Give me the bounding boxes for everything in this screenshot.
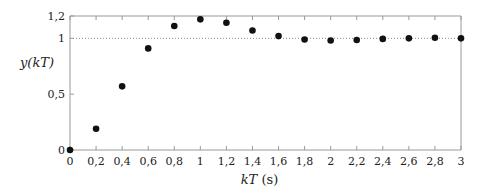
data-point <box>145 45 152 52</box>
x-tick-label: 1,8 <box>296 155 314 168</box>
x-axis-label: kT (s) <box>241 172 279 187</box>
x-tick-label: 2,8 <box>426 155 444 168</box>
data-point <box>301 36 308 43</box>
data-point <box>171 23 178 30</box>
data-point <box>223 19 230 26</box>
y-tick-label: 1 <box>58 32 65 45</box>
x-tick-label: 1,4 <box>244 155 262 168</box>
data-point <box>93 125 100 132</box>
y-tick-label: 0,5 <box>48 88 66 101</box>
x-tick-label: 0,8 <box>166 155 184 168</box>
data-point <box>458 35 465 42</box>
x-tick-label: 0,6 <box>139 155 157 168</box>
x-tick-label: 2,2 <box>348 155 366 168</box>
y-axis-label: y(kT) <box>19 55 54 70</box>
data-point <box>432 34 439 41</box>
x-tick-label: 0 <box>67 155 74 168</box>
data-point <box>353 37 360 44</box>
x-tick-label: 2,4 <box>374 155 392 168</box>
x-tick-label: 1 <box>197 155 204 168</box>
x-tick-label: 3 <box>458 155 465 168</box>
data-point <box>380 36 387 43</box>
data-point <box>406 35 413 42</box>
x-tick-label: 1,2 <box>218 155 236 168</box>
x-tick-label: 0,2 <box>87 155 105 168</box>
data-point <box>275 33 282 40</box>
data-point <box>119 83 126 90</box>
data-point <box>197 16 204 23</box>
y-tick-label: 1,2 <box>48 10 66 23</box>
x-tick-label: 2,6 <box>400 155 418 168</box>
data-point <box>67 147 74 154</box>
x-tick-label: 0,4 <box>113 155 131 168</box>
data-point <box>249 27 256 34</box>
x-tick-label: 2 <box>327 155 334 168</box>
data-point <box>327 37 334 44</box>
x-tick-label: 1,6 <box>270 155 288 168</box>
plot-area: 00,20,40,60,811,21,41,61,822,22,42,62,83… <box>0 0 480 196</box>
y-tick-label: 0 <box>58 144 65 157</box>
scatter-chart: 00,20,40,60,811,21,41,61,822,22,42,62,83… <box>0 0 480 196</box>
